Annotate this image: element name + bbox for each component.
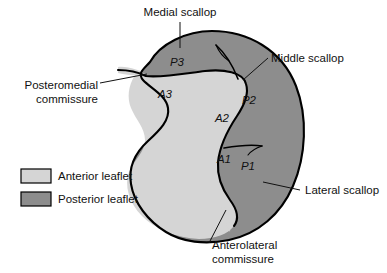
legend-swatch-posterior-leaflet bbox=[21, 192, 51, 206]
legend-swatch-anterior-leaflet bbox=[21, 169, 51, 183]
callout-anterolateral-commissure-line1: Anterolateral bbox=[212, 239, 277, 251]
diagram-canvas: P3 P2 P1 A3 A2 A1 Medial scallop Middle … bbox=[0, 0, 387, 273]
legend-label-posterior-leaflet: Posterior leaflet bbox=[58, 193, 139, 205]
segment-label-p3: P3 bbox=[170, 56, 185, 68]
segment-label-a1: A1 bbox=[216, 153, 231, 165]
segment-label-p1: P1 bbox=[241, 160, 255, 172]
legend-label-anterior-leaflet: Anterior leaflet bbox=[58, 170, 133, 182]
legend: Anterior leaflet Posterior leaflet bbox=[21, 169, 139, 206]
callout-anterolateral-commissure-line2: commissure bbox=[212, 253, 274, 265]
mitral-valve-diagram: P3 P2 P1 A3 A2 A1 Medial scallop Middle … bbox=[0, 0, 387, 273]
segment-label-a3: A3 bbox=[157, 88, 173, 100]
segment-label-a2: A2 bbox=[214, 112, 230, 124]
segment-label-p2: P2 bbox=[242, 94, 257, 106]
callout-posteromedial-commissure-line2: commissure bbox=[36, 93, 98, 105]
callout-medial-scallop: Medial scallop bbox=[144, 6, 217, 18]
callout-lateral-scallop: Lateral scallop bbox=[305, 184, 379, 196]
callout-middle-scallop: Middle scallop bbox=[271, 52, 344, 64]
callout-posteromedial-commissure-line1: Posteromedial bbox=[24, 79, 98, 91]
